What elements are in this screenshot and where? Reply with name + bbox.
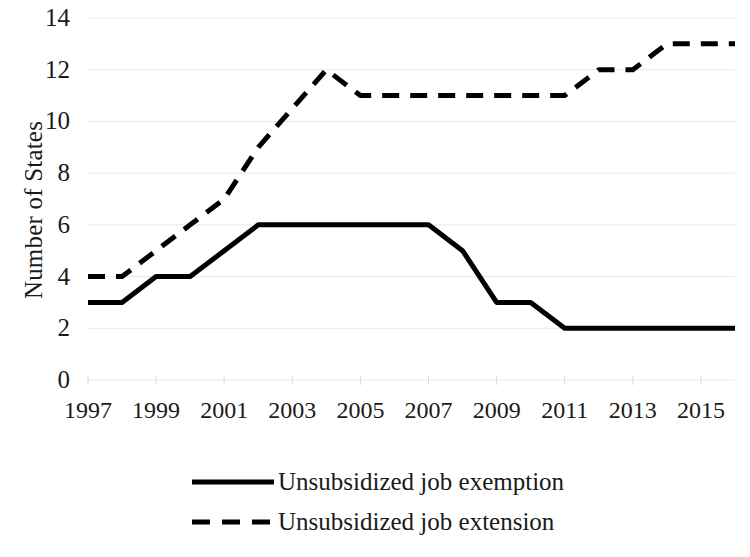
legend-label-exemption: Unsubsidized job exemption xyxy=(276,468,564,496)
series-line-extension xyxy=(88,44,735,277)
legend-item-extension: Unsubsidized job extension xyxy=(190,502,710,542)
gridlines xyxy=(88,18,735,380)
line-chart: Number of States 14121086420 19971999200… xyxy=(0,0,750,557)
data-series-layer xyxy=(88,44,735,328)
legend-item-exemption: Unsubsidized job exemption xyxy=(190,462,710,502)
legend-swatch-solid xyxy=(190,473,276,491)
legend-swatch-dashed xyxy=(190,513,276,531)
legend-label-extension: Unsubsidized job extension xyxy=(276,508,554,536)
chart-legend: Unsubsidized job exemption Unsubsidized … xyxy=(190,462,710,542)
